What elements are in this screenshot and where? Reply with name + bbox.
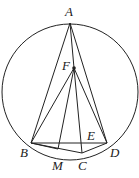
label-m: M — [51, 158, 64, 173]
segments — [31, 23, 107, 153]
label-c: C — [78, 158, 87, 173]
circumcircle — [2, 24, 138, 160]
geometry-diagram: A F B M C D E — [0, 0, 139, 178]
label-d: D — [109, 145, 120, 160]
point-f-dot — [72, 66, 76, 70]
label-a: A — [64, 4, 73, 19]
label-b: B — [20, 145, 28, 160]
label-e: E — [86, 128, 95, 143]
label-f: F — [61, 58, 71, 73]
